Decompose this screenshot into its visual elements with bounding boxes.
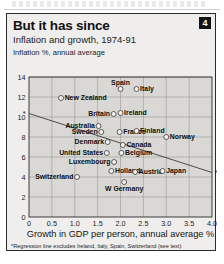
svg-text:Belgium: Belgium xyxy=(125,149,152,157)
svg-text:Italy: Italy xyxy=(140,85,154,93)
svg-text:Growth in GDP per person, annu: Growth in GDP per person, annual average… xyxy=(27,229,214,239)
scatter-plot: ** New ZealandSpainItalyBritainIrelandAu… xyxy=(7,71,217,252)
page-bleed-text xyxy=(12,1,208,7)
page-rule xyxy=(4,9,220,10)
svg-text:Luxembourg: Luxembourg xyxy=(69,158,111,166)
svg-text:W Germany: W Germany xyxy=(105,185,143,193)
svg-text:Spain: Spain xyxy=(111,79,130,87)
svg-text:1.5: 1.5 xyxy=(93,219,103,228)
svg-text:Finland: Finland xyxy=(140,127,165,134)
svg-text:14: 14 xyxy=(17,73,25,82)
chart-header: But it has since Inflation and growth, 1… xyxy=(7,14,215,57)
svg-text:Japan: Japan xyxy=(166,167,186,175)
svg-text:6: 6 xyxy=(21,153,25,162)
y-axis-title: Inflation %, annual average xyxy=(13,48,210,57)
svg-text:2.5: 2.5 xyxy=(138,219,148,228)
svg-text:0: 0 xyxy=(21,213,25,222)
chart-card: But it has since Inflation and growth, 1… xyxy=(6,13,216,251)
svg-text:*: * xyxy=(215,168,218,177)
svg-text:4.0: 4.0 xyxy=(207,219,217,228)
svg-text:2: 2 xyxy=(21,193,25,202)
page-title: But it has since xyxy=(13,18,210,33)
svg-text:Canada: Canada xyxy=(126,141,151,148)
y-axis-ticklabels: 02468101214 xyxy=(17,73,25,222)
svg-text:10: 10 xyxy=(17,113,25,122)
footnote-group: *Regression line excludes Ireland, Italy… xyxy=(11,243,181,249)
svg-text:New Zealand: New Zealand xyxy=(65,94,107,101)
svg-text:Ireland: Ireland xyxy=(124,109,147,116)
svg-text:0: 0 xyxy=(27,219,31,228)
svg-text:Austria: Austria xyxy=(139,168,163,175)
svg-text:8: 8 xyxy=(21,133,25,142)
svg-text:Denmark: Denmark xyxy=(75,138,105,145)
x-axis-title-group: Growth in GDP per person, annual average… xyxy=(27,229,214,239)
svg-text:2.0: 2.0 xyxy=(115,219,125,228)
svg-text:Sweden: Sweden xyxy=(72,128,98,135)
svg-text:3.0: 3.0 xyxy=(161,219,171,228)
svg-text:Britain: Britain xyxy=(88,110,110,117)
svg-text:United States: United States xyxy=(59,149,103,156)
x-axis-ticklabels: 00.51.01.52.02.53.03.54.0 xyxy=(27,219,217,228)
chart-number-badge: 4 xyxy=(199,17,211,29)
svg-text:4: 4 xyxy=(21,173,25,182)
scatter-plot-svg: ** New ZealandSpainItalyBritainIrelandAu… xyxy=(7,71,217,252)
chart-subtitle: Inflation and growth, 1974-91 xyxy=(13,34,210,46)
svg-text:0.5: 0.5 xyxy=(47,219,57,228)
svg-text:1.0: 1.0 xyxy=(70,219,80,228)
svg-text:12: 12 xyxy=(17,93,25,102)
svg-text:*Regression line excludes Irel: *Regression line excludes Ireland, Italy… xyxy=(11,243,181,249)
svg-text:Norway: Norway xyxy=(170,133,195,141)
svg-text:Switzerland: Switzerland xyxy=(35,173,73,180)
page-root: But it has since Inflation and growth, 1… xyxy=(0,0,224,264)
svg-text:3.5: 3.5 xyxy=(184,219,194,228)
